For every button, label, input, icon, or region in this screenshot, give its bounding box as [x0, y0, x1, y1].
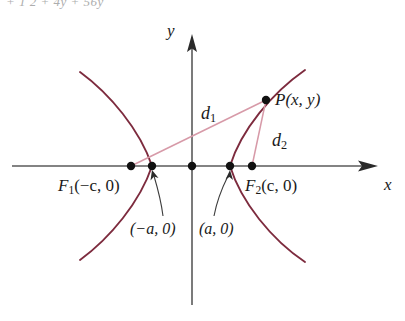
vertex-right-label: (a, 0) [199, 221, 234, 237]
hyperbola-diagram [0, 0, 405, 321]
vertex-left-label: (−a, 0) [130, 221, 175, 237]
distance-d2-subscript: 2 [281, 138, 287, 152]
distance-d2-symbol: d [272, 130, 281, 150]
point-focus-right [248, 162, 256, 170]
focus-left-label: F1(−c, 0) [58, 177, 120, 196]
y-axis-label: y [167, 22, 175, 39]
focus-left-symbol: F [58, 176, 68, 195]
distance-d2-label: d2 [272, 131, 287, 151]
point-vertex-right [226, 162, 234, 170]
point-p-symbol: P [275, 90, 285, 109]
point-focus-left [127, 162, 135, 170]
figure-canvas: + 1 2 + 4y + 56y [0, 0, 405, 321]
distance-d1-subscript: 1 [210, 111, 216, 125]
focus-right-symbol: F [245, 176, 255, 195]
distance-line-d2 [252, 100, 266, 166]
distance-d1-symbol: d [201, 103, 210, 123]
leader-arrow-vertex-left [151, 170, 164, 216]
point-p-coords: (x, y) [285, 90, 320, 109]
point-origin [188, 162, 196, 170]
point-vertex-left [148, 162, 156, 170]
focus-right-label: F2(c, 0) [245, 177, 297, 196]
distance-d1-label: d1 [201, 104, 216, 124]
x-axis-label: x [384, 176, 392, 193]
focus-right-coords: (c, 0) [261, 176, 297, 195]
leader-arrow-vertex-right [214, 170, 233, 216]
point-p-label: P(x, y) [275, 91, 320, 108]
focus-left-coords: (−c, 0) [74, 176, 119, 195]
point-p-marker [262, 96, 270, 104]
